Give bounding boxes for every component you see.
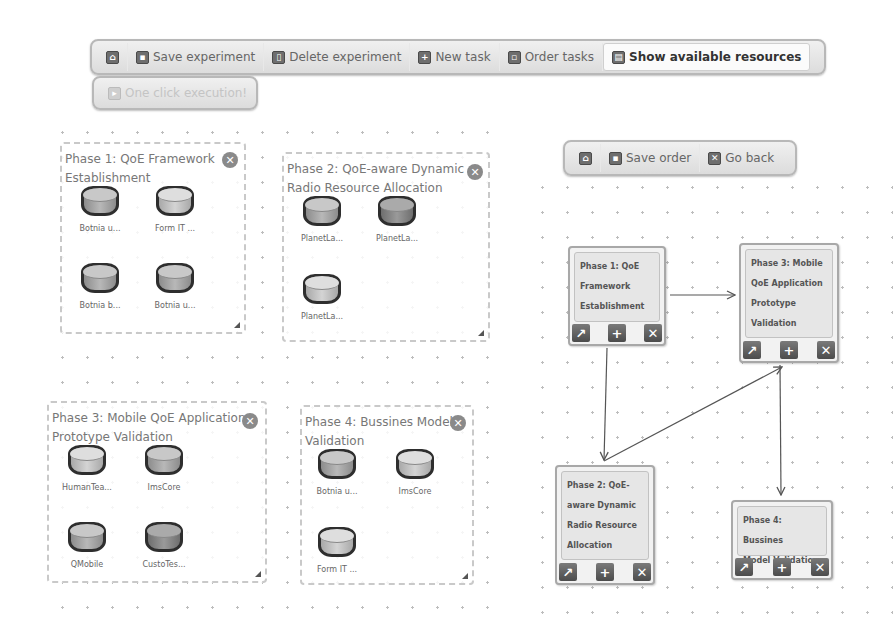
home-icon: ⌂ bbox=[579, 152, 592, 165]
resources-icon: ▤ bbox=[612, 51, 625, 64]
plus-icon: + bbox=[784, 343, 795, 358]
node-actions: ↗ + ✕ bbox=[572, 324, 662, 342]
resource-item[interactable]: ImsCore bbox=[129, 439, 199, 492]
node-line: Phase 3: Mobile bbox=[751, 254, 827, 274]
close-icon: ✕ bbox=[453, 417, 462, 430]
node-line: Establishment bbox=[580, 297, 654, 317]
node-line: aware Dynamic bbox=[567, 496, 643, 516]
resource-item[interactable]: CustoTes... bbox=[129, 516, 199, 569]
resource-item[interactable]: PlanetLa... bbox=[287, 190, 357, 243]
one-click-execution-button[interactable]: ▸ One click execution! bbox=[100, 79, 255, 107]
show-resources-button[interactable]: ▤ Show available resources bbox=[603, 43, 810, 71]
phase-box-4[interactable]: Phase 4: Bussines Model Validation ✕ Bot… bbox=[300, 405, 474, 585]
resource-label: Botnia u... bbox=[140, 301, 210, 310]
order-toolbar: ⌂ ▪ Save order ✕ Go back bbox=[563, 140, 797, 176]
node-line: Validation bbox=[751, 314, 827, 334]
resource-item[interactable]: Botnia u... bbox=[140, 257, 210, 310]
node-actions: ↗ + ✕ bbox=[743, 341, 835, 359]
link-icon: ↗ bbox=[747, 343, 758, 358]
link-icon: ↗ bbox=[739, 560, 750, 575]
resource-label: PlanetLa... bbox=[287, 312, 357, 321]
close-icon: ✕ bbox=[637, 565, 648, 580]
add-button[interactable]: + bbox=[608, 324, 626, 342]
go-back-button[interactable]: ✕ Go back bbox=[700, 144, 782, 172]
resource-label: ImsCore bbox=[380, 487, 450, 496]
database-icon bbox=[378, 190, 416, 228]
experiment-editor: ⌂ ▪ Save experiment ▯ Delete experiment … bbox=[0, 0, 893, 638]
home-button[interactable]: ⌂ bbox=[98, 43, 128, 71]
resource-label: Botnia u... bbox=[65, 224, 135, 233]
close-icon: ✕ bbox=[225, 154, 234, 167]
close-icon: ✕ bbox=[821, 343, 832, 358]
resource-item[interactable]: PlanetLa... bbox=[287, 268, 357, 321]
close-phase-button[interactable]: ✕ bbox=[242, 413, 258, 429]
resize-handle[interactable] bbox=[255, 571, 261, 577]
resource-label: Form IT ... bbox=[140, 224, 210, 233]
save-icon: ▪ bbox=[136, 51, 149, 64]
save-experiment-button[interactable]: ▪ Save experiment bbox=[128, 43, 264, 71]
close-phase-button[interactable]: ✕ bbox=[450, 415, 466, 431]
resource-item[interactable]: PlanetLa... bbox=[362, 190, 432, 243]
show-resources-label: Show available resources bbox=[629, 50, 801, 64]
link-icon: ↗ bbox=[563, 565, 574, 580]
close-icon: ✕ bbox=[708, 152, 721, 165]
database-icon bbox=[145, 439, 183, 477]
resource-item[interactable]: Botnia u... bbox=[302, 443, 372, 496]
close-phase-button[interactable]: ✕ bbox=[222, 152, 238, 168]
resource-item[interactable]: Botnia u... bbox=[65, 180, 135, 233]
phase-box-2[interactable]: Phase 2: QoE-aware Dynamic Radio Resourc… bbox=[282, 152, 490, 342]
remove-button[interactable]: ✕ bbox=[644, 324, 662, 342]
close-phase-button[interactable]: ✕ bbox=[467, 164, 483, 180]
database-icon bbox=[68, 516, 106, 554]
save-order-button[interactable]: ▪ Save order bbox=[601, 144, 700, 172]
link-button[interactable]: ↗ bbox=[735, 558, 753, 576]
database-icon bbox=[318, 521, 356, 559]
home-icon: ⌂ bbox=[106, 51, 119, 64]
close-icon: ✕ bbox=[815, 560, 826, 575]
resource-item[interactable]: HumanTea... bbox=[52, 439, 122, 492]
plus-icon: + bbox=[777, 560, 788, 575]
database-icon bbox=[68, 439, 106, 477]
resize-handle[interactable] bbox=[478, 330, 484, 336]
resource-label: QMobile bbox=[52, 560, 122, 569]
remove-button[interactable]: ✕ bbox=[633, 563, 651, 581]
delete-experiment-label: Delete experiment bbox=[289, 50, 401, 64]
order-tasks-button[interactable]: ▫ Order tasks bbox=[500, 43, 603, 71]
resource-label: PlanetLa... bbox=[287, 234, 357, 243]
new-task-label: New task bbox=[435, 50, 490, 64]
home-button[interactable]: ⌂ bbox=[571, 144, 601, 172]
resource-label: HumanTea... bbox=[52, 483, 122, 492]
order-node-phase-3[interactable]: Phase 3: Mobile QoE Application Prototyp… bbox=[739, 243, 839, 363]
database-icon bbox=[145, 516, 183, 554]
phase-box-3[interactable]: Phase 3: Mobile QoE Application Prototyp… bbox=[47, 401, 267, 583]
execution-toolbar: ▸ One click execution! bbox=[92, 76, 258, 110]
link-button[interactable]: ↗ bbox=[559, 563, 577, 581]
order-node-phase-4[interactable]: Phase 4: Bussines Model Validation ↗ + ✕ bbox=[731, 500, 833, 580]
save-experiment-label: Save experiment bbox=[153, 50, 255, 64]
resource-item[interactable]: Form IT ... bbox=[140, 180, 210, 233]
database-icon bbox=[303, 268, 341, 306]
link-button[interactable]: ↗ bbox=[572, 324, 590, 342]
database-icon bbox=[81, 257, 119, 295]
phase-box-1[interactable]: Phase 1: QoE Framework Establishment ✕ B… bbox=[60, 142, 246, 334]
order-node-phase-2[interactable]: Phase 2: QoE- aware Dynamic Radio Resour… bbox=[555, 465, 655, 585]
link-button[interactable]: ↗ bbox=[743, 341, 761, 359]
delete-experiment-button[interactable]: ▯ Delete experiment bbox=[264, 43, 410, 71]
plus-icon: + bbox=[418, 51, 431, 64]
resize-handle[interactable] bbox=[234, 322, 240, 328]
new-task-button[interactable]: + New task bbox=[410, 43, 499, 71]
resource-item[interactable]: QMobile bbox=[52, 516, 122, 569]
order-node-phase-1[interactable]: Phase 1: QoE Framework Establishment ↗ +… bbox=[568, 246, 666, 346]
remove-button[interactable]: ✕ bbox=[817, 341, 835, 359]
resource-item[interactable]: Form IT ... bbox=[302, 521, 372, 574]
add-button[interactable]: + bbox=[596, 563, 614, 581]
order-icon: ▫ bbox=[508, 51, 521, 64]
resource-item[interactable]: Botnia b... bbox=[65, 257, 135, 310]
add-button[interactable]: + bbox=[780, 341, 798, 359]
add-button[interactable]: + bbox=[773, 558, 791, 576]
node-line: Framework bbox=[580, 277, 654, 297]
resize-handle[interactable] bbox=[462, 573, 468, 579]
remove-button[interactable]: ✕ bbox=[811, 558, 829, 576]
resource-item[interactable]: ImsCore bbox=[380, 443, 450, 496]
database-icon bbox=[81, 180, 119, 218]
